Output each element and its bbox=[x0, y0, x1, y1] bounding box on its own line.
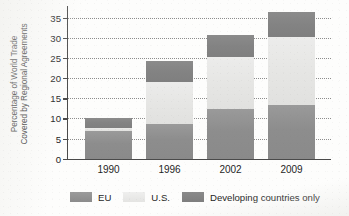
legend-swatch-eu bbox=[70, 192, 92, 202]
y-tick-label-25: 25 bbox=[50, 53, 61, 64]
x-axis-line bbox=[67, 159, 331, 160]
chart-figure: Percentage of World Trade Covered by Reg… bbox=[0, 0, 349, 216]
bar-1990 bbox=[85, 118, 132, 158]
bar-2009 bbox=[268, 12, 315, 159]
y-axis-title-line-1: Percentage of World Trade bbox=[9, 36, 19, 133]
bar-2002 bbox=[207, 35, 254, 159]
bar-segment-1990-developing-countries-only bbox=[85, 118, 132, 128]
tickmark-10 bbox=[63, 118, 68, 119]
tickmark-30 bbox=[63, 38, 68, 39]
bar-segment-1996-u-s bbox=[146, 82, 193, 123]
legend-swatch-us bbox=[123, 192, 145, 202]
x-tick-label-1996: 1996 bbox=[140, 164, 200, 175]
tickmark-5 bbox=[63, 139, 68, 140]
bar-segment-2009-developing-countries-only bbox=[268, 12, 315, 37]
tickmark-35 bbox=[63, 18, 68, 19]
bar-segment-2002-eu bbox=[207, 109, 254, 158]
y-tick-label-10: 10 bbox=[50, 113, 61, 124]
bar-segment-2002-developing-countries-only bbox=[207, 35, 254, 57]
x-tick-label-2002: 2002 bbox=[201, 164, 261, 175]
legend-item-eu: EU bbox=[70, 192, 111, 203]
bar-segment-1996-eu bbox=[146, 124, 193, 159]
bar-segment-1996-developing-countries-only bbox=[146, 61, 193, 82]
x-tick-label-1990: 1990 bbox=[79, 164, 139, 175]
legend-label: EU bbox=[98, 192, 111, 203]
y-tick-label-0: 0 bbox=[56, 153, 61, 164]
tickmark-20 bbox=[63, 78, 68, 79]
bar-segment-2009-u-s bbox=[268, 37, 315, 105]
y-tick-label-15: 15 bbox=[50, 93, 61, 104]
chart-legend: EUU.S.Developing countries only bbox=[70, 190, 332, 204]
x-tick-label-2009: 2009 bbox=[262, 164, 322, 175]
y-tick-label-30: 30 bbox=[50, 33, 61, 44]
y-axis-title-line-2: Covered by Regional Agreements bbox=[19, 23, 29, 144]
y-axis-title: Percentage of World Trade Covered by Reg… bbox=[2, 0, 44, 168]
bar-1996 bbox=[146, 61, 193, 159]
y-tick-label-5: 5 bbox=[56, 133, 61, 144]
tickmark-15 bbox=[63, 98, 68, 99]
legend-item-developing-countries-only: Developing countries only bbox=[182, 192, 320, 203]
bar-segment-2002-u-s bbox=[207, 57, 254, 109]
legend-label: U.S. bbox=[151, 192, 170, 203]
y-axis-line bbox=[67, 6, 68, 160]
y-tick-label-20: 20 bbox=[50, 73, 61, 84]
bar-segment-1990-eu bbox=[85, 131, 132, 159]
legend-swatch-developing bbox=[182, 192, 204, 202]
bar-segment-2009-eu bbox=[268, 105, 315, 158]
y-tick-label-35: 35 bbox=[50, 13, 61, 24]
tickmark-0 bbox=[63, 159, 68, 160]
tickmark-25 bbox=[63, 58, 68, 59]
legend-item-u-s: U.S. bbox=[123, 192, 170, 203]
legend-label: Developing countries only bbox=[210, 192, 320, 203]
plot-area: 05101520253035 bbox=[67, 6, 331, 160]
